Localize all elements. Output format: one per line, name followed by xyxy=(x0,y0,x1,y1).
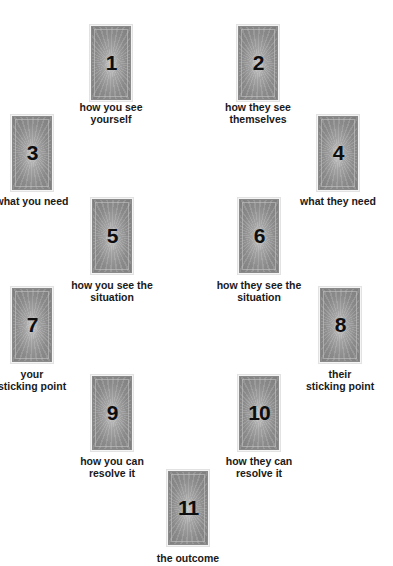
sunburst-pattern: 8 xyxy=(320,288,360,362)
card-back: 3 xyxy=(10,114,54,192)
sunburst-pattern: 6 xyxy=(239,199,279,273)
sunburst-pattern: 9 xyxy=(92,376,132,450)
card-number: 7 xyxy=(13,313,51,337)
label-line: resolve it xyxy=(42,467,182,479)
card-number: 1 xyxy=(92,51,130,75)
card-number: 10 xyxy=(240,401,278,425)
card-back: 9 xyxy=(90,374,134,452)
label-line: themselves xyxy=(188,113,328,125)
card-position-4[interactable]: 4 xyxy=(316,114,360,192)
label-line: situation xyxy=(189,291,329,303)
card-back: 5 xyxy=(90,197,134,275)
card-number: 6 xyxy=(240,224,278,248)
sunburst-pattern: 3 xyxy=(12,116,52,190)
card-position-8[interactable]: 8 xyxy=(318,286,362,364)
label-line: resolve it xyxy=(189,467,329,479)
label-line: their xyxy=(270,368,393,380)
card-label-10: how they can resolve it xyxy=(189,455,329,479)
card-back: 10 xyxy=(237,374,281,452)
card-number: 8 xyxy=(321,313,359,337)
card-back: 8 xyxy=(318,286,362,364)
card-position-1[interactable]: 1 xyxy=(89,24,133,102)
card-number: 2 xyxy=(239,51,277,75)
card-position-7[interactable]: 7 xyxy=(10,286,54,364)
card-number: 5 xyxy=(93,224,131,248)
card-back: 1 xyxy=(89,24,133,102)
label-line: your xyxy=(0,368,102,380)
card-position-6[interactable]: 6 xyxy=(237,197,281,275)
card-position-10[interactable]: 10 xyxy=(237,374,281,452)
label-line: sticking point xyxy=(270,380,393,392)
card-position-11[interactable]: 11 xyxy=(166,469,210,547)
card-number: 4 xyxy=(319,141,357,165)
card-position-3[interactable]: 3 xyxy=(10,114,54,192)
card-back: 2 xyxy=(236,24,280,102)
sunburst-pattern: 2 xyxy=(238,26,278,100)
label-line: how they see xyxy=(188,101,328,113)
sunburst-pattern: 1 xyxy=(91,26,131,100)
card-label-6: how they see the situation xyxy=(189,279,329,303)
label-line: what you need xyxy=(0,195,102,207)
card-label-4: what they need xyxy=(268,195,393,207)
label-line: how you can xyxy=(42,455,182,467)
card-number: 9 xyxy=(93,401,131,425)
card-label-5: how you see the situation xyxy=(42,279,182,303)
card-position-9[interactable]: 9 xyxy=(90,374,134,452)
card-number: 11 xyxy=(169,496,207,520)
card-label-8: their sticking point xyxy=(270,368,393,392)
card-back: 11 xyxy=(166,469,210,547)
sunburst-pattern: 4 xyxy=(318,116,358,190)
card-number: 3 xyxy=(13,141,51,165)
sunburst-pattern: 11 xyxy=(168,471,208,545)
card-back: 6 xyxy=(237,197,281,275)
sunburst-pattern: 10 xyxy=(239,376,279,450)
card-label-2: how they see themselves xyxy=(188,101,328,125)
card-back: 4 xyxy=(316,114,360,192)
card-position-2[interactable]: 2 xyxy=(236,24,280,102)
label-line: how you see xyxy=(41,101,181,113)
card-label-7: your sticking point xyxy=(0,368,102,392)
card-label-3: what you need xyxy=(0,195,102,207)
label-line: how they can xyxy=(189,455,329,467)
label-line: yourself xyxy=(41,113,181,125)
label-line: sticking point xyxy=(0,380,102,392)
label-line: what they need xyxy=(268,195,393,207)
card-label-9: how you can resolve it xyxy=(42,455,182,479)
sunburst-pattern: 7 xyxy=(12,288,52,362)
card-position-5[interactable]: 5 xyxy=(90,197,134,275)
label-line: how you see the xyxy=(42,279,182,291)
label-line: the outcome xyxy=(118,552,258,564)
card-back: 7 xyxy=(10,286,54,364)
sunburst-pattern: 5 xyxy=(92,199,132,273)
label-line: situation xyxy=(42,291,182,303)
label-line: how they see the xyxy=(189,279,329,291)
card-label-1: how you see yourself xyxy=(41,101,181,125)
card-label-11: the outcome xyxy=(118,552,258,564)
